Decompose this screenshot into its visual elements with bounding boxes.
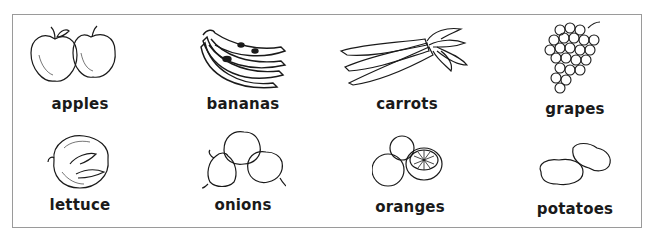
onions-icon [200,128,286,190]
item-label: lettuce [5,196,155,214]
item-oranges: oranges [345,134,475,224]
item-label: potatoes [510,200,640,218]
item-lettuce: lettuce [5,132,155,222]
item-label: oranges [345,198,475,216]
item-grapes: grapes [510,20,640,120]
potatoes-icon [537,142,613,188]
item-label: onions [168,196,318,214]
grapes-icon [540,20,610,96]
item-label: apples [5,95,155,113]
item-apples: apples [5,25,155,120]
item-label: bananas [168,95,318,113]
apples-icon [25,25,135,87]
oranges-icon [372,134,448,190]
item-bananas: bananas [168,25,318,120]
item-label: grapes [510,100,640,118]
item-label: carrots [337,95,477,113]
lettuce-icon [40,132,120,190]
item-potatoes: potatoes [510,142,640,224]
carrots-icon [337,25,477,89]
item-carrots: carrots [337,25,477,120]
item-onions: onions [168,128,318,222]
bananas-icon [193,25,293,89]
